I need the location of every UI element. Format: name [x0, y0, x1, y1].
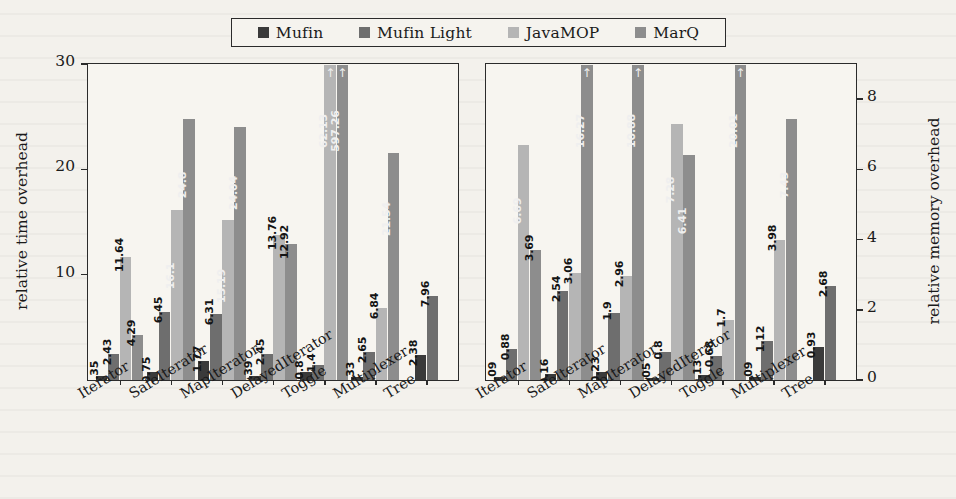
bar-value-label: 4.29 [125, 320, 138, 346]
bar-tree-mufin-light: 7.96 [427, 296, 439, 380]
bar-value-label: 2.96 [613, 261, 626, 287]
bar-value-label: 2.68 [817, 271, 830, 297]
y-axis-tick-label: 2 [867, 298, 877, 316]
plot-area-memory: 0.090.886.693.690.162.543.0616.27↑0.231.… [486, 64, 856, 380]
bar-multiplexer-marq: 7.43 [786, 119, 798, 380]
legend-item-label: JavaMOP [526, 24, 600, 42]
bar-group-delayediterator: 0.392.4513.7612.92 [249, 64, 297, 380]
bar-safeiterator-marq: 16.27↑ [581, 65, 593, 380]
bar-group-tree: 2.387.96 [415, 64, 439, 380]
bar-tree-mufin: 2.38 [415, 355, 427, 380]
bar-mapiterator-marq: 10.88↑ [632, 65, 644, 380]
x-axis-tick-mark [426, 380, 427, 385]
bar-value-label: 597.26 [329, 110, 342, 151]
bar-toggle-marq: 597.26↑ [337, 65, 349, 380]
y-axis-tick-mark [856, 169, 863, 171]
legend-item-mufin-light: Mufin Light [359, 24, 472, 42]
x-axis-tick-mark [375, 380, 376, 385]
bar-value-label: 3.06 [562, 257, 575, 283]
bar-value-label: 16.27 [574, 114, 587, 148]
chart-legend: MufinMufin LightJavaMOPMarQ [231, 18, 726, 47]
y-axis-tick-label: 0 [867, 368, 877, 386]
clipped-bar-arrow-icon: ↑ [325, 67, 335, 79]
legend-swatch-icon [359, 27, 370, 38]
bar-value-label: 6.45 [152, 297, 165, 323]
y-axis-tick-label: 10 [0, 263, 75, 281]
clipped-bar-arrow-icon: ↑ [582, 67, 592, 79]
clipped-bar-arrow-icon: ↑ [633, 67, 643, 79]
bar-value-label: 0.88 [499, 334, 512, 360]
y-axis-tick-mark [81, 169, 88, 171]
bar-toggle-marq: 20.01↑ [735, 65, 747, 380]
bar-value-label: 6.69 [511, 198, 524, 224]
bar-group-safeiterator: 0.162.543.0616.27↑ [545, 64, 593, 380]
x-axis-tick-mark [171, 380, 172, 385]
bar-value-label: 24.8 [176, 172, 189, 198]
y-axis-tick-mark [856, 309, 863, 311]
bar-mapiterator-marq: 24.04 [234, 127, 246, 380]
x-axis-tick-mark [773, 380, 774, 385]
bar-group-iterator: 0.352.4311.644.29 [96, 64, 144, 380]
bar-value-label: 15.19 [215, 269, 228, 303]
legend-item-javamop: JavaMOP [508, 24, 600, 42]
x-axis-tick-mark [120, 380, 121, 385]
bar-group-mapiterator: 1.776.3115.1924.04 [198, 64, 246, 380]
bar-value-label: 11.64 [113, 239, 126, 273]
x-axis-tick-mark [324, 380, 325, 385]
bar-value-label: 6.31 [203, 298, 216, 324]
bar-group-iterator: 0.090.886.693.69 [494, 64, 542, 380]
x-axis-tick-mark [518, 380, 519, 385]
plot-area-time: 0.352.4311.644.290.756.4516.124.81.776.3… [88, 64, 458, 380]
bar-tree-mufin: 0.93 [813, 347, 825, 380]
y-axis-title: relative memory overhead [925, 118, 943, 325]
y-axis-title: relative time overhead [13, 132, 31, 310]
bar-group-mapiterator: 0.231.92.9610.88↑ [596, 64, 644, 380]
y-axis-tick-label: 30 [0, 52, 75, 70]
chart-panel-memory: 0.090.886.693.690.162.543.0616.27↑0.231.… [485, 63, 857, 381]
chart-panel-time: 0.352.4311.644.290.756.4516.124.81.776.3… [87, 63, 459, 381]
bar-value-label: 10.88 [625, 114, 638, 148]
legend-item-mufin: Mufin [258, 24, 324, 42]
bar-value-label: 6.84 [368, 293, 381, 319]
bar-value-label: 2.54 [550, 276, 563, 302]
bar-value-label: 3.69 [523, 235, 536, 261]
bar-safeiterator-marq: 24.8 [183, 119, 195, 380]
bar-delayediterator-javamop: 7.28 [671, 124, 683, 380]
bar-group-multiplexer: 0.091.123.987.43 [749, 64, 797, 380]
y-axis-tick-mark [856, 379, 863, 381]
bar-value-label: 20.01 [727, 114, 740, 148]
figure-container: MufinMufin LightJavaMOPMarQ 0.352.4311.6… [0, 0, 956, 499]
bar-value-label: 2.43 [101, 339, 114, 365]
y-axis-tick-mark [856, 98, 863, 100]
legend-item-label: Mufin Light [377, 24, 472, 42]
bar-value-label: 1.12 [754, 326, 767, 352]
x-axis-tick-mark [222, 380, 223, 385]
x-axis-tick-mark [671, 380, 672, 385]
y-axis-tick-mark [81, 63, 88, 65]
y-axis-tick-label: 20 [0, 157, 75, 175]
bar-value-label: 3.98 [766, 225, 779, 251]
y-axis-tick-mark [856, 239, 863, 241]
bar-value-label: 21.54 [380, 202, 393, 236]
bar-value-label: 6.41 [676, 208, 689, 234]
bar-tree-mufin-light: 2.68 [825, 286, 837, 380]
y-axis-tick-label: 6 [867, 157, 877, 175]
bar-iterator-javamop: 6.69 [518, 145, 530, 380]
bar-value-label: 2.65 [356, 337, 369, 363]
bar-value-label: 1.7 [715, 309, 728, 328]
bar-value-label: 16.1 [164, 263, 177, 289]
bar-group-multiplexer: 0.332.656.8421.54 [351, 64, 399, 380]
bar-group-safeiterator: 0.756.4516.124.8 [147, 64, 195, 380]
x-axis-tick-mark [824, 380, 825, 385]
legend-item-label: Mufin [276, 24, 324, 42]
clipped-bar-arrow-icon: ↑ [735, 67, 745, 79]
legend-swatch-icon [635, 27, 646, 38]
y-axis-tick-label: 4 [867, 228, 877, 246]
y-axis-tick-label: 8 [867, 87, 877, 105]
bar-value-label: 7.28 [664, 177, 677, 203]
bar-value-label: 12.92 [278, 225, 291, 259]
x-axis-tick-mark [620, 380, 621, 385]
bar-group-tree: 0.932.68 [813, 64, 837, 380]
bar-value-label: 1.9 [601, 302, 614, 321]
clipped-bar-arrow-icon: ↑ [337, 67, 347, 79]
